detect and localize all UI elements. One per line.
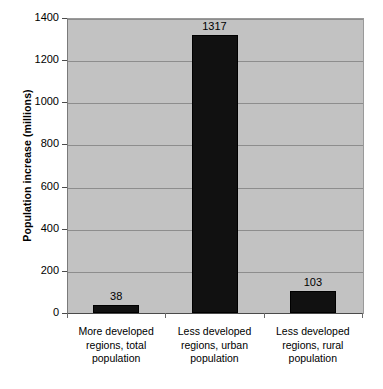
- y-tick-label: 400: [0, 223, 59, 234]
- x-tick-label-line: regions, total: [67, 339, 165, 353]
- x-tick-label-line: population: [264, 352, 362, 366]
- x-tick-mark: [67, 313, 68, 318]
- x-tick-label-line: regions, rural: [264, 339, 362, 353]
- x-tick-label: Less developedregions, urbanpopulation: [165, 325, 263, 366]
- y-tick-label: 1200: [0, 54, 59, 65]
- x-tick-label-line: regions, urban: [165, 339, 263, 353]
- bar-value-label: 103: [273, 276, 353, 288]
- x-tick-label-line: Less developed: [264, 325, 362, 339]
- y-tick-label: 1400: [0, 12, 59, 23]
- y-tick-mark: [62, 60, 67, 61]
- y-tick-mark: [62, 102, 67, 103]
- y-tick-mark: [62, 229, 67, 230]
- x-tick-mark: [362, 313, 363, 318]
- y-tick-mark: [62, 271, 67, 272]
- y-tick-label: 800: [0, 138, 59, 149]
- bar-value-label: 1317: [175, 20, 255, 32]
- x-tick-mark: [165, 313, 166, 318]
- x-tick-label-line: More developed: [67, 325, 165, 339]
- x-tick-label-line: population: [67, 352, 165, 366]
- y-tick-mark: [62, 187, 67, 188]
- y-tick-label: 200: [0, 265, 59, 276]
- x-axis-line: [67, 313, 363, 314]
- x-tick-label: More developedregions, totalpopulation: [67, 325, 165, 366]
- y-tick-label: 1000: [0, 96, 59, 107]
- y-tick-label: 600: [0, 181, 59, 192]
- x-tick-label-line: population: [165, 352, 263, 366]
- bar-value-label: 38: [76, 290, 156, 302]
- y-tick-mark: [62, 18, 67, 19]
- x-tick-mark: [264, 313, 265, 318]
- bar-chart: Population increase (millions) 020040060…: [0, 0, 383, 389]
- bar: [290, 291, 336, 313]
- x-tick-label: Less developedregions, ruralpopulation: [264, 325, 362, 366]
- y-tick-mark: [62, 144, 67, 145]
- x-tick-label-line: Less developed: [165, 325, 263, 339]
- bar: [192, 35, 238, 313]
- y-tick-label: 0: [0, 307, 59, 318]
- bar: [93, 305, 139, 313]
